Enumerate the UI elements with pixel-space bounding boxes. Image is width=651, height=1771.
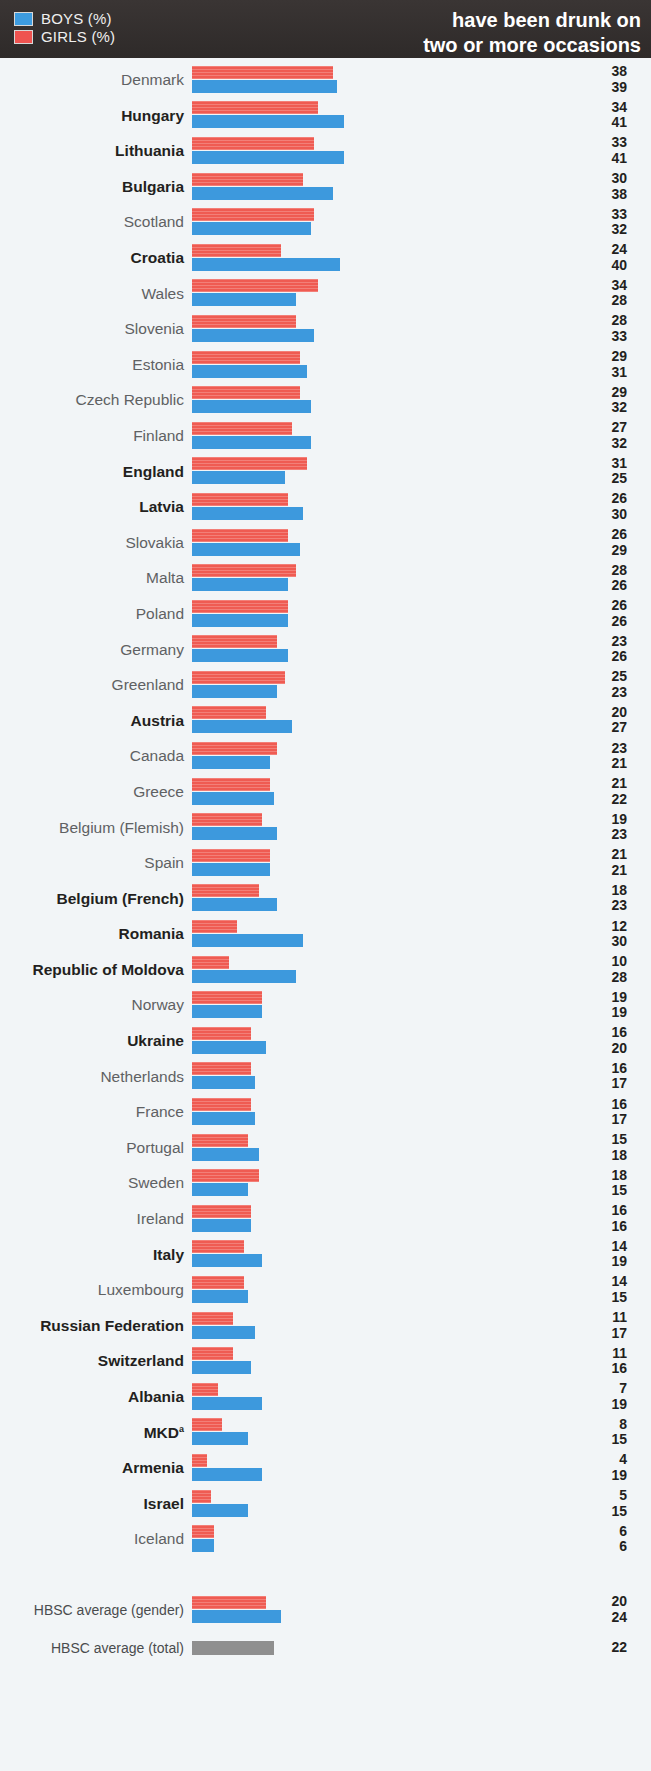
table-row: Malta2826 bbox=[0, 560, 651, 596]
bar-boys bbox=[192, 187, 333, 200]
bar-boys bbox=[192, 1183, 248, 1196]
value-girls: 15 bbox=[583, 1132, 627, 1148]
value-girls: 31 bbox=[583, 456, 627, 472]
value-boys: 15 bbox=[583, 1183, 627, 1199]
table-row: Iceland66 bbox=[0, 1521, 651, 1557]
legend-item-boys: BOYS (%) bbox=[14, 10, 115, 28]
bar-girls bbox=[192, 1418, 222, 1431]
value-boys: 22 bbox=[583, 792, 627, 808]
value-girls: 4 bbox=[583, 1452, 627, 1468]
table-row: Greece2122 bbox=[0, 774, 651, 810]
average-row: HBSC average (total)22 bbox=[0, 1629, 651, 1667]
value-girls: 24 bbox=[583, 242, 627, 258]
country-label: Albania bbox=[0, 1389, 192, 1405]
table-row: France1617 bbox=[0, 1094, 651, 1130]
value-girls: 20 bbox=[583, 1594, 627, 1610]
country-label: Ukraine bbox=[0, 1033, 192, 1049]
country-label: Italy bbox=[0, 1247, 192, 1263]
table-row: Greenland2523 bbox=[0, 667, 651, 703]
bar-girls bbox=[192, 813, 262, 826]
value-boys: 21 bbox=[583, 756, 627, 772]
bar-boys bbox=[192, 1326, 255, 1339]
bar-boys bbox=[192, 293, 296, 306]
value-boys: 32 bbox=[583, 222, 627, 238]
bar-boys bbox=[192, 1041, 266, 1054]
bar-girls bbox=[192, 173, 303, 186]
legend-item-girls: GIRLS (%) bbox=[14, 28, 115, 46]
value-boys: 17 bbox=[583, 1112, 627, 1128]
bar-girls bbox=[192, 671, 285, 684]
table-row: Spain2121 bbox=[0, 845, 651, 881]
bar-girls bbox=[192, 1490, 211, 1503]
bar-girls bbox=[192, 1596, 266, 1609]
bar-boys bbox=[192, 970, 296, 983]
bar-girls bbox=[192, 66, 333, 79]
table-row: Belgium (Flemish)1923 bbox=[0, 809, 651, 845]
value-girls: 33 bbox=[583, 207, 627, 223]
country-label: Finland bbox=[0, 428, 192, 444]
table-row: Russian Federation1117 bbox=[0, 1308, 651, 1344]
table-row: Bulgaria3038 bbox=[0, 169, 651, 205]
value-labels: 2326 bbox=[583, 632, 627, 668]
table-row: England3125 bbox=[0, 454, 651, 490]
bar-boys bbox=[192, 1432, 248, 1445]
country-label: Belgium (Flemish) bbox=[0, 820, 192, 836]
bar-boys bbox=[192, 756, 270, 769]
bar-boys bbox=[192, 898, 277, 911]
value-labels: 1116 bbox=[583, 1343, 627, 1379]
table-row: Luxembourg1415 bbox=[0, 1272, 651, 1308]
value-boys: 17 bbox=[583, 1076, 627, 1092]
value-labels: 1117 bbox=[583, 1308, 627, 1344]
value-labels: 3341 bbox=[583, 133, 627, 169]
value-boys: 19 bbox=[583, 1005, 627, 1021]
value-girls: 16 bbox=[583, 1025, 627, 1041]
average-label: HBSC average (total) bbox=[0, 1641, 192, 1655]
value-boys: 38 bbox=[583, 187, 627, 203]
bar-boys bbox=[192, 1504, 248, 1517]
bar-boys bbox=[192, 1468, 262, 1481]
country-label: Norway bbox=[0, 997, 192, 1013]
table-row: Sweden1815 bbox=[0, 1165, 651, 1201]
value-girls: 10 bbox=[583, 954, 627, 970]
bar-boys bbox=[192, 543, 300, 556]
value-labels: 3038 bbox=[583, 169, 627, 205]
bar-girls bbox=[192, 1027, 251, 1040]
value-labels: 2321 bbox=[583, 738, 627, 774]
value-labels: 1028 bbox=[583, 952, 627, 988]
bar-boys bbox=[192, 222, 311, 235]
value-labels: 1617 bbox=[583, 1094, 627, 1130]
bar-girls bbox=[192, 137, 314, 150]
bar-girls bbox=[192, 529, 288, 542]
value-boys: 30 bbox=[583, 934, 627, 950]
value-boys: 32 bbox=[583, 400, 627, 416]
value-labels: 3441 bbox=[583, 98, 627, 134]
value-boys: 31 bbox=[583, 365, 627, 381]
value-boys: 39 bbox=[583, 80, 627, 96]
value-boys: 16 bbox=[583, 1219, 627, 1235]
country-label: Republic of Moldova bbox=[0, 962, 192, 978]
country-label: Lithuania bbox=[0, 143, 192, 159]
value-boys: 40 bbox=[583, 258, 627, 274]
value-labels: 2732 bbox=[583, 418, 627, 454]
country-label: Malta bbox=[0, 570, 192, 586]
table-row: Canada2321 bbox=[0, 738, 651, 774]
value-girls: 14 bbox=[583, 1239, 627, 1255]
value-boys: 20 bbox=[583, 1041, 627, 1057]
country-label: Iceland bbox=[0, 1531, 192, 1547]
value-girls: 14 bbox=[583, 1274, 627, 1290]
bar-girls bbox=[192, 315, 296, 328]
table-row: Scotland3332 bbox=[0, 204, 651, 240]
country-label: Croatia bbox=[0, 250, 192, 266]
table-row: Hungary3441 bbox=[0, 98, 651, 134]
table-row: Finland2732 bbox=[0, 418, 651, 454]
value-boys: 19 bbox=[583, 1468, 627, 1484]
value-labels: 1230 bbox=[583, 916, 627, 952]
bar-girls bbox=[192, 884, 259, 897]
value-girls: 6 bbox=[583, 1524, 627, 1540]
table-row: Estonia2931 bbox=[0, 347, 651, 383]
table-row: Armenia419 bbox=[0, 1450, 651, 1486]
table-row: Netherlands1617 bbox=[0, 1059, 651, 1095]
value-boys: 29 bbox=[583, 543, 627, 559]
page-title: have been drunk on two or more occasions bbox=[423, 6, 641, 58]
value-boys: 23 bbox=[583, 898, 627, 914]
